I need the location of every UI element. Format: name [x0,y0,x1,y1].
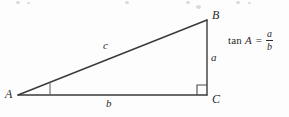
formula-equals-sign: = [256,35,262,46]
side-hypotenuse-line [18,20,207,95]
vertex-label-c: C [212,93,220,105]
formula-function-name: tan [228,35,242,46]
tangent-formula: tan A = a b [228,29,273,52]
formula-numerator: a [266,29,273,39]
triangle-figure: A B C c a b tan A = a b [0,0,289,117]
vertex-label-b: B [212,9,219,21]
triangle-drawing [0,0,289,117]
side-label-hypotenuse: c [103,40,108,51]
formula-argument: A [245,35,252,46]
side-label-opposite: a [211,52,217,63]
formula-denominator: b [266,42,273,52]
formula-fraction: a b [266,29,273,52]
vertex-label-a: A [5,88,12,100]
right-angle-square-C [197,85,207,95]
side-label-adjacent: b [106,98,112,109]
